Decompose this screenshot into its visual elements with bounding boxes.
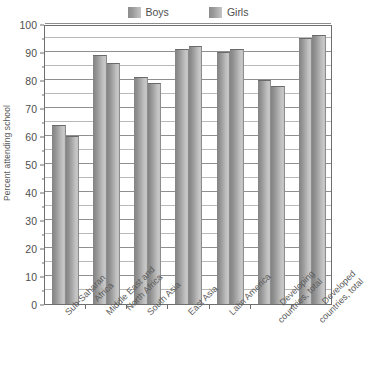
bar-group [251,26,292,304]
figure-caption [8,371,338,380]
bar-group [86,26,127,304]
legend-label-girls: Girls [227,7,249,18]
x-axis-category-labels: Sub-SaharanAfricaMiddle East andNorth Af… [0,305,345,380]
bar-girls [271,86,285,304]
bar-group [292,26,333,304]
bar-group [168,26,209,304]
x-axis-tick-mark [85,305,86,309]
bar-girls [107,63,121,304]
legend-swatch-girls [209,7,222,18]
bar-group [45,26,86,304]
legend-swatch-boys [128,7,141,18]
bar-girls [66,136,80,304]
bar-group [210,26,251,304]
y-axis-tick-label: 80 [25,75,37,87]
legend-label-boys: Boys [146,7,169,18]
x-axis-tick-mark [250,305,251,309]
plot-area [44,25,332,305]
y-axis-tick-label: 60 [25,131,37,143]
legend-entry-boys: Boys [128,7,169,18]
bar-boys [52,125,66,304]
y-axis-tick-label: 40 [25,187,37,199]
x-axis-tick-mark [209,305,210,309]
y-axis-tick-label: 10 [25,271,37,283]
gridline-major [45,23,331,24]
y-axis-tick-label: 50 [25,159,37,171]
bars-layer [45,26,331,304]
x-axis-tick-mark [126,305,127,309]
y-axis-tick-label: 30 [25,215,37,227]
bar-boys [217,52,231,304]
bar-group [127,26,168,304]
x-axis-tick-mark [167,305,168,309]
bar-boys [258,80,272,304]
bar-girls [230,49,244,304]
bar-girls [189,46,203,304]
bar-girls [312,35,326,304]
y-axis-tick-labels: 0102030405060708090100 [0,25,44,305]
bar-boys [175,49,189,304]
y-axis-tick-label: 70 [25,103,37,115]
chart-legend: Boys Girls [44,2,332,22]
legend-entry-girls: Girls [209,7,249,18]
bar-boys [299,38,313,304]
y-axis-tick-label: 20 [25,243,37,255]
y-axis-tick-label: 90 [25,47,37,59]
y-axis-tick-label: 100 [19,19,37,31]
x-axis-tick-mark [291,305,292,309]
bar-boys [93,55,107,304]
